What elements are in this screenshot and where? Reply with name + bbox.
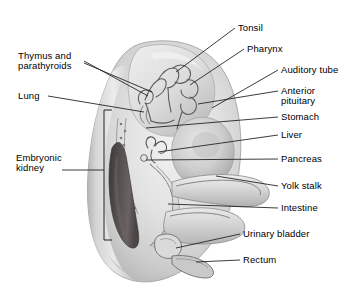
urinary-bladder <box>155 234 182 258</box>
label-liver: Liver <box>281 129 302 140</box>
label-anterior-pituitary-line2: pituitary <box>281 95 315 106</box>
label-pancreas: Pancreas <box>281 153 322 164</box>
label-yolk-stalk: Yolk stalk <box>281 180 322 191</box>
label-intestine: Intestine <box>281 202 318 213</box>
label-pharynx: Pharynx <box>247 43 283 54</box>
label-auditory-tube: Auditory tube <box>281 64 338 75</box>
label-embryonic-kidney-line2: kidney <box>16 162 44 173</box>
label-thymus-line2: parathyroids <box>18 60 71 71</box>
rectum <box>172 255 213 278</box>
bladder-shape <box>155 234 182 258</box>
figure-container: Tonsil Pharynx Auditory tube Anterior pi… <box>0 0 360 308</box>
label-urinary-bladder: Urinary bladder <box>243 228 309 239</box>
label-rectum: Rectum <box>243 254 276 265</box>
label-lung: Lung <box>18 90 40 101</box>
label-stomach: Stomach <box>281 111 319 122</box>
label-tonsil: Tonsil <box>238 22 263 33</box>
